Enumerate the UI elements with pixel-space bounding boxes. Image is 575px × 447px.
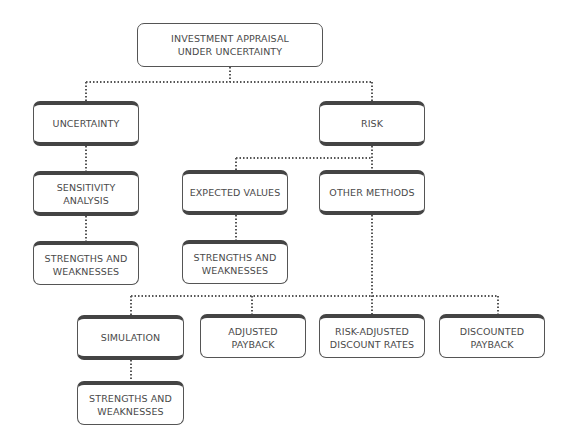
- uncertainty-label: UNCERTAINTY: [53, 117, 120, 130]
- uncertainty-strengths-node: STRENGTHS AND WEAKNESSES: [33, 241, 139, 285]
- simulation-node: SIMULATION: [77, 315, 184, 360]
- discounted-payback-node: DISCOUNTED PAYBACK: [439, 314, 545, 358]
- discounted-payback-label: DISCOUNTED PAYBACK: [460, 325, 524, 351]
- expected-values-strengths-label: STRENGTHS AND WEAKNESSES: [194, 251, 277, 277]
- adjusted-payback-node: ADJUSTED PAYBACK: [200, 314, 306, 358]
- simulation-strengths-node: STRENGTHS AND WEAKNESSES: [77, 381, 184, 425]
- expected-values-node: EXPECTED VALUES: [182, 170, 288, 215]
- other-methods-node: OTHER METHODS: [319, 170, 425, 215]
- simulation-strengths-label: STRENGTHS AND WEAKNESSES: [89, 392, 172, 418]
- sensitivity-analysis-label: SENSITIVITY ANALYSIS: [57, 181, 116, 207]
- sensitivity-analysis-node: SENSITIVITY ANALYSIS: [33, 171, 139, 216]
- root-label: INVESTMENT APPRAISAL UNDER UNCERTAINTY: [171, 32, 289, 58]
- uncertainty-strengths-label: STRENGTHS AND WEAKNESSES: [45, 252, 128, 278]
- risk-node: RISK: [319, 101, 425, 146]
- adjusted-payback-label: ADJUSTED PAYBACK: [228, 325, 278, 351]
- other-methods-label: OTHER METHODS: [329, 186, 414, 199]
- risk-label: RISK: [361, 117, 383, 130]
- expected-values-label: EXPECTED VALUES: [190, 186, 281, 199]
- simulation-label: SIMULATION: [101, 331, 160, 344]
- risk-adjusted-discount-rates-node: RISK-ADJUSTED DISCOUNT RATES: [319, 314, 425, 358]
- uncertainty-node: UNCERTAINTY: [33, 101, 139, 146]
- connector-lines: [0, 0, 575, 447]
- expected-values-strengths-node: STRENGTHS AND WEAKNESSES: [182, 240, 288, 284]
- risk-adjusted-discount-rates-label: RISK-ADJUSTED DISCOUNT RATES: [330, 325, 414, 351]
- root-node: INVESTMENT APPRAISAL UNDER UNCERTAINTY: [137, 23, 323, 67]
